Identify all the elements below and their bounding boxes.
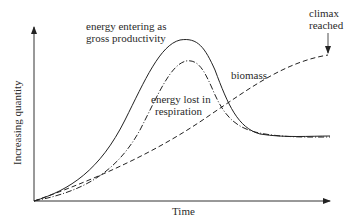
respiration-label-line2: respiration — [155, 105, 203, 117]
ecological-succession-diagram: energy entering as gross productivity en… — [0, 0, 352, 224]
respiration-label-line1: energy lost in — [151, 93, 211, 105]
gross-productivity-curve — [34, 40, 330, 201]
climax-label-line1: climax — [309, 7, 339, 19]
respiration-curve — [34, 61, 330, 201]
gross-label-line1: energy entering as — [86, 20, 166, 32]
gross-label-line2: gross productivity — [86, 32, 166, 44]
biomass-label: biomass — [231, 69, 267, 81]
climax-label-line2: reached — [309, 19, 344, 31]
x-axis-label: Time — [172, 205, 195, 217]
y-axis-label: Increasing quantity — [11, 80, 23, 165]
